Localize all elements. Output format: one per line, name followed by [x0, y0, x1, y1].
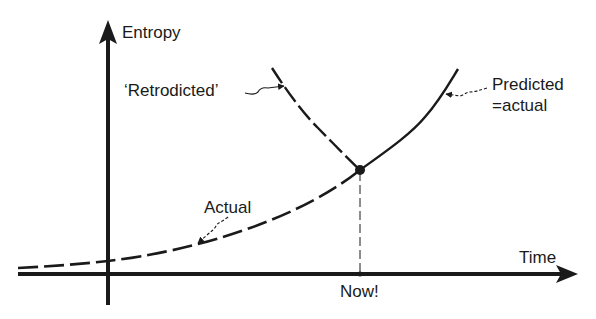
- predicted-pointer-icon: [446, 88, 487, 96]
- entropy-diagram: Entropy Time Now! ‘Retrodicted’ Predicte…: [0, 0, 596, 319]
- now-label: Now!: [340, 282, 379, 301]
- retrodicted-curve: [272, 68, 360, 170]
- x-axis: [18, 265, 578, 283]
- x-axis-label: Time: [519, 248, 556, 267]
- actual-label: Actual: [204, 198, 251, 217]
- retrodicted-pointer-icon: [245, 86, 284, 94]
- predicted-label-line1: Predicted: [492, 75, 564, 94]
- actual-curve: [18, 170, 360, 268]
- predicted-label-line2: =actual: [492, 96, 547, 115]
- y-axis-label: Entropy: [122, 23, 181, 42]
- now-point: [355, 165, 365, 175]
- predicted-curve: [360, 69, 458, 170]
- now-tick: [358, 272, 363, 277]
- retrodicted-label: ‘Retrodicted’: [124, 81, 219, 100]
